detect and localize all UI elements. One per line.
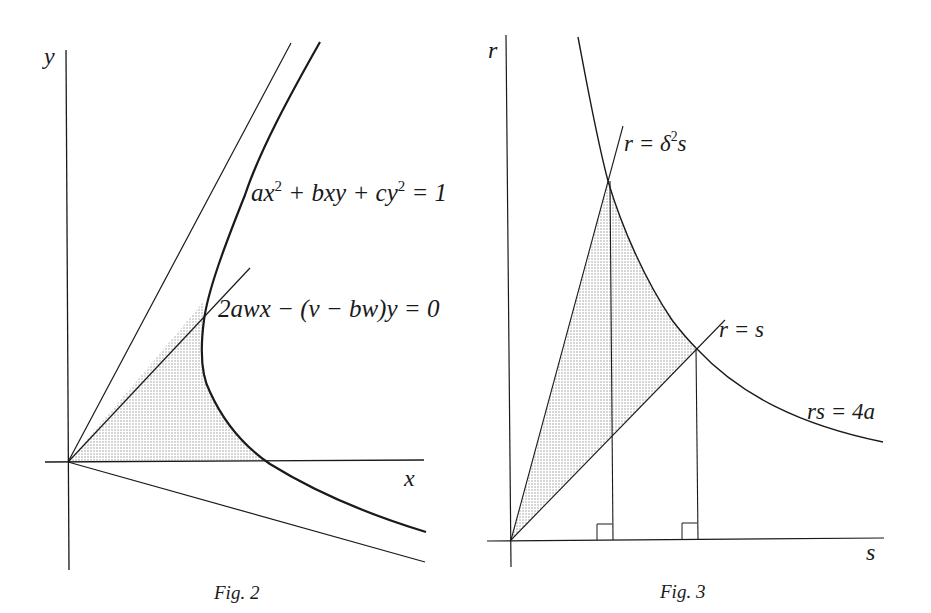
fig2-caption: Fig. 2 xyxy=(214,583,259,602)
eq-part: r = δ xyxy=(624,131,671,156)
eq-part: + bxy + cy xyxy=(282,179,398,206)
fig3-r-axis-label: r xyxy=(488,38,497,62)
fig3-hyperbola-equation: rs = 4a xyxy=(807,400,875,423)
fig2-shaded-region xyxy=(68,301,265,462)
eq-part: ax xyxy=(251,179,275,206)
fig3-s-axis-label: s xyxy=(866,540,875,564)
eq-part: s xyxy=(678,131,687,156)
eq-exponent: 2 xyxy=(275,178,283,194)
figure-3 xyxy=(487,35,884,567)
fig3-right-angle-marker-1 xyxy=(597,524,612,540)
fig2-lower-asymptote xyxy=(68,462,425,562)
eq-exponent: 2 xyxy=(671,129,678,144)
fig3-vertical-drop-2 xyxy=(696,349,698,539)
fig2-x-axis-label: x xyxy=(404,466,415,490)
fig3-line-identity-equation: r = s xyxy=(719,318,764,341)
fig3-r-axis xyxy=(506,35,511,567)
eq-part: = 1 xyxy=(405,179,447,206)
fig3-shaded-region xyxy=(511,181,697,540)
fig3-caption: Fig. 3 xyxy=(660,582,705,601)
figures-canvas xyxy=(0,0,931,613)
fig3-s-axis xyxy=(487,538,884,541)
fig2-tangent-equation: 2awx − (v − bw)y = 0 xyxy=(218,296,439,321)
fig2-y-axis-label: y xyxy=(44,44,55,68)
fig3-right-angle-marker-2 xyxy=(682,523,697,539)
fig3-line-delta-equation: r = δ2s xyxy=(624,132,687,155)
fig2-hyperbola-equation: ax2 + bxy + cy2 = 1 xyxy=(251,180,447,205)
fig2-y-axis xyxy=(66,50,69,570)
